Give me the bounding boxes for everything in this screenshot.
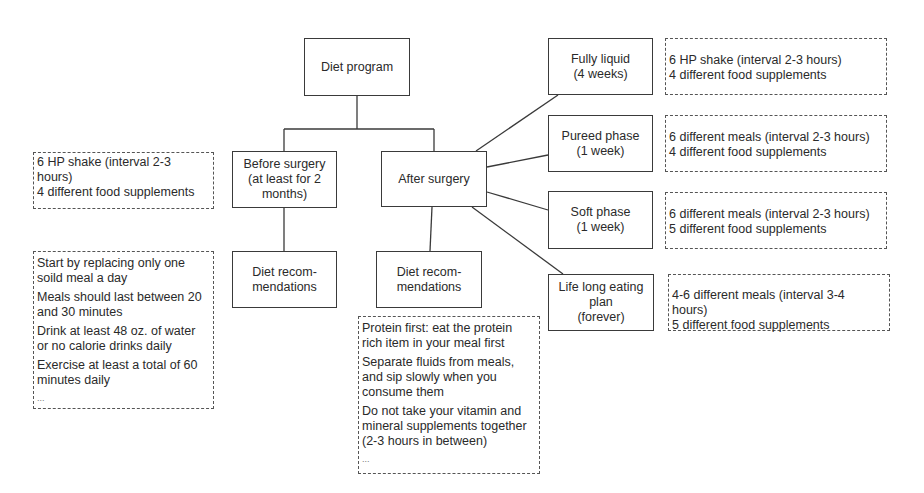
recommendation-item: Do not take your vitamin and mineral sup… — [362, 404, 533, 449]
detail-line: 5 different food supplements — [672, 318, 883, 333]
recommendation-item: Meals should last between 20 and 30 minu… — [37, 290, 207, 320]
recommendation-item: Start by replacing only one soild meal a… — [37, 256, 207, 286]
detail-line: 4 different food supplements — [669, 68, 880, 83]
recommendation-item: Separate fluids from meals, and sip slow… — [362, 355, 533, 400]
detail-line: 5 different food supplements — [669, 222, 880, 237]
ellipsis: ... — [362, 453, 533, 465]
after-recommendations-list: Protein first: eat the protein rich item… — [358, 316, 540, 474]
before-recommendations-label: Diet recom- mendations — [252, 265, 317, 295]
phase-label: Fully liquid (4 weeks) — [571, 52, 630, 82]
after-surgery-node: After surgery — [381, 151, 487, 207]
diet-program-node: Diet program — [304, 38, 410, 96]
phase-soft-node: Soft phase (1 week) — [548, 191, 653, 249]
phase-label: Pureed phase (1 week) — [562, 129, 640, 159]
after-recommendations-label: Diet recom- mendations — [397, 265, 462, 295]
phase-lifelong-details: 4-6 different meals (interval 3-4 hours)… — [668, 274, 890, 331]
detail-line: 4 different food supplements — [669, 145, 880, 160]
detail-line: 6 HP shake (interval 2-3 hours) — [37, 155, 207, 185]
phase-label: Soft phase (1 week) — [571, 205, 631, 235]
phase-fully-liquid-details: 6 HP shake (interval 2-3 hours) 4 differ… — [665, 38, 887, 95]
before-regimen-details: 6 HP shake (interval 2-3 hours) 4 differ… — [33, 152, 214, 209]
detail-line: 6 different meals (interval 2-3 hours) — [669, 207, 880, 222]
before-surgery-node: Before surgery (at least for 2 months) — [232, 151, 337, 208]
after-recommendations-node: Diet recom- mendations — [376, 251, 482, 308]
recommendation-item: Protein first: eat the protein rich item… — [362, 321, 533, 351]
before-recommendations-node: Diet recom- mendations — [232, 251, 337, 308]
phase-pureed-node: Pureed phase (1 week) — [548, 115, 653, 172]
detail-line: 4 different food supplements — [37, 185, 207, 200]
detail-line: 4-6 different meals (interval 3-4 hours) — [672, 288, 883, 318]
recommendation-item: Drink at least 48 oz. of water or no cal… — [37, 324, 207, 354]
phase-soft-details: 6 different meals (interval 2-3 hours) 5… — [665, 192, 887, 249]
phase-pureed-details: 6 different meals (interval 2-3 hours) 4… — [665, 115, 887, 172]
phase-fully-liquid-node: Fully liquid (4 weeks) — [548, 38, 653, 95]
detail-line: 6 HP shake (interval 2-3 hours) — [669, 53, 880, 68]
detail-line: 6 different meals (interval 2-3 hours) — [669, 130, 880, 145]
recommendation-item: Exercise at least a total of 60 minutes … — [37, 358, 207, 388]
phase-lifelong-node: Life long eating plan (forever) — [548, 274, 654, 331]
ellipsis: ... — [37, 392, 207, 404]
diet-program-label: Diet program — [321, 60, 393, 75]
before-surgery-label: Before surgery (at least for 2 months) — [244, 157, 326, 202]
before-recommendations-list: Start by replacing only one soild meal a… — [33, 251, 214, 409]
after-surgery-label: After surgery — [398, 172, 470, 187]
phase-label: Life long eating plan (forever) — [559, 280, 644, 325]
